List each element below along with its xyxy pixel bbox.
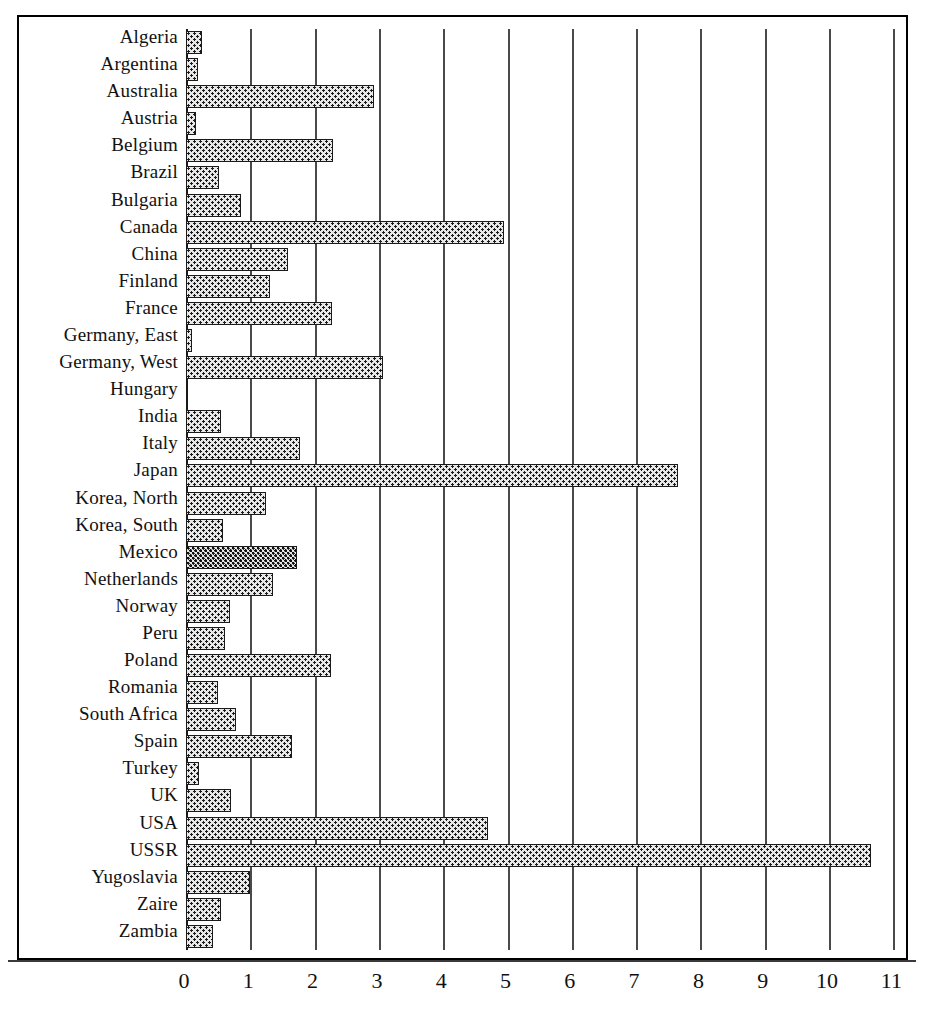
bar-row bbox=[186, 83, 910, 112]
bar bbox=[186, 85, 374, 108]
bar bbox=[186, 600, 230, 623]
bar bbox=[186, 437, 300, 460]
bar-row bbox=[186, 923, 910, 952]
y-tick-label: Norway bbox=[18, 596, 178, 616]
y-tick-label: Netherlands bbox=[18, 569, 178, 589]
bar-row bbox=[186, 760, 910, 789]
bar bbox=[186, 546, 297, 569]
bar bbox=[186, 925, 213, 948]
y-tick-label: Korea, North bbox=[18, 488, 178, 508]
bar-chart: AlgeriaArgentinaAustraliaAustriaBelgiumB… bbox=[0, 0, 925, 1019]
x-tick-label: 3 bbox=[371, 968, 382, 994]
bar-row bbox=[186, 408, 910, 437]
bar bbox=[186, 817, 488, 840]
y-tick-label: China bbox=[18, 244, 178, 264]
x-tick-label: 9 bbox=[757, 968, 768, 994]
y-tick-label: Algeria bbox=[18, 27, 178, 47]
bar bbox=[186, 708, 236, 731]
y-tick-label: Spain bbox=[18, 731, 178, 751]
bar-row bbox=[186, 679, 910, 708]
y-tick-label: USA bbox=[18, 813, 178, 833]
bar-row bbox=[186, 842, 910, 871]
y-tick-label: Austria bbox=[18, 108, 178, 128]
x-tick-label: 7 bbox=[629, 968, 640, 994]
bar bbox=[186, 464, 678, 487]
bar-row bbox=[186, 490, 910, 519]
bar-row bbox=[186, 544, 910, 573]
bar-row bbox=[186, 381, 910, 410]
y-tick-label: Brazil bbox=[18, 162, 178, 182]
bar-row bbox=[186, 327, 910, 356]
bar-row bbox=[186, 164, 910, 193]
y-tick-label: Zambia bbox=[18, 921, 178, 941]
y-tick-label: Korea, South bbox=[18, 515, 178, 535]
bar bbox=[186, 844, 871, 867]
bar-row bbox=[186, 517, 910, 546]
y-tick-label: France bbox=[18, 298, 178, 318]
bar bbox=[186, 519, 223, 542]
y-tick-label: Yugoslavia bbox=[18, 867, 178, 887]
bar bbox=[186, 789, 231, 812]
x-axis-labels: 01234567891011 bbox=[0, 968, 925, 1008]
bar-row bbox=[186, 273, 910, 302]
y-tick-label: Peru bbox=[18, 623, 178, 643]
bar-row bbox=[186, 56, 910, 85]
y-tick-label: Turkey bbox=[18, 758, 178, 778]
x-tick-label: 0 bbox=[179, 968, 190, 994]
y-tick-label: Italy bbox=[18, 433, 178, 453]
bar-row bbox=[186, 625, 910, 654]
bar bbox=[186, 898, 221, 921]
y-tick-label: Hungary bbox=[18, 379, 178, 399]
y-tick-label: Canada bbox=[18, 217, 178, 237]
x-tick-label: 11 bbox=[881, 968, 902, 994]
y-axis-labels: AlgeriaArgentinaAustraliaAustriaBelgiumB… bbox=[17, 27, 184, 948]
y-tick-label: USSR bbox=[18, 840, 178, 860]
bar-rows bbox=[186, 29, 910, 950]
y-tick-label: Belgium bbox=[18, 135, 178, 155]
bar bbox=[186, 302, 332, 325]
x-tick-label: 4 bbox=[436, 968, 447, 994]
bar bbox=[186, 410, 221, 433]
y-tick-label: Finland bbox=[18, 271, 178, 291]
bar-row bbox=[186, 571, 910, 600]
bar bbox=[186, 139, 333, 162]
y-tick-label: Germany, East bbox=[18, 325, 178, 345]
bar-row bbox=[186, 733, 910, 762]
bar-row bbox=[186, 246, 910, 275]
bar bbox=[186, 762, 199, 785]
bar-row bbox=[186, 29, 910, 58]
y-tick-label: Poland bbox=[18, 650, 178, 670]
x-axis-line bbox=[8, 960, 916, 962]
bar bbox=[186, 627, 225, 650]
bar-row bbox=[186, 300, 910, 329]
bar bbox=[186, 166, 219, 189]
bar-row bbox=[186, 706, 910, 735]
bar-row bbox=[186, 435, 910, 464]
bar-row bbox=[186, 787, 910, 816]
y-tick-label: South Africa bbox=[18, 704, 178, 724]
bar-row bbox=[186, 192, 910, 221]
bar-row bbox=[186, 896, 910, 925]
x-tick-label: 6 bbox=[564, 968, 575, 994]
y-tick-label: Bulgaria bbox=[18, 190, 178, 210]
x-tick-label: 1 bbox=[243, 968, 254, 994]
bar bbox=[186, 248, 288, 271]
bar-row bbox=[186, 869, 910, 898]
bar bbox=[186, 654, 331, 677]
bar bbox=[186, 58, 198, 81]
bar bbox=[186, 871, 250, 894]
bar-row bbox=[186, 815, 910, 844]
bar bbox=[186, 492, 266, 515]
y-tick-label: UK bbox=[18, 785, 178, 805]
y-tick-label: India bbox=[18, 406, 178, 426]
y-tick-label: Argentina bbox=[18, 54, 178, 74]
bar bbox=[186, 681, 218, 704]
y-tick-label: Germany, West bbox=[18, 352, 178, 372]
x-tick-label: 5 bbox=[500, 968, 511, 994]
y-tick-label: Japan bbox=[18, 460, 178, 480]
bar-row bbox=[186, 110, 910, 139]
y-tick-label: Romania bbox=[18, 677, 178, 697]
x-tick-label: 8 bbox=[693, 968, 704, 994]
bar bbox=[186, 275, 270, 298]
bar-row bbox=[186, 462, 910, 491]
